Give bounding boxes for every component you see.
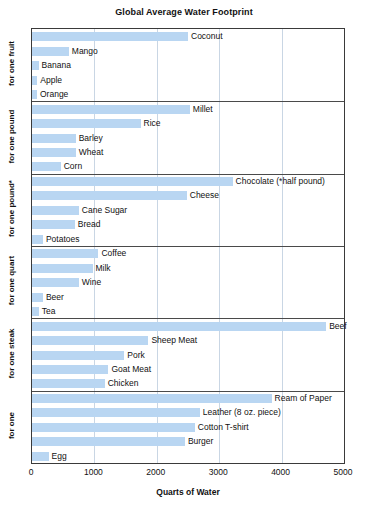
bar — [32, 423, 195, 432]
bar-label: Chocolate (*half pound) — [233, 177, 325, 186]
y-axis-group-label: for one pound — [7, 100, 16, 172]
bar — [32, 336, 148, 345]
bar-label: Cheese — [187, 191, 219, 200]
bar-label: Tea — [39, 307, 56, 316]
bar-label: Corn — [61, 162, 82, 171]
bar-label: Coffee — [98, 249, 126, 258]
bar-label: Cotton T-shirt — [195, 423, 249, 432]
bar-label: Wine — [79, 278, 101, 287]
bar-label: Pork — [124, 351, 144, 360]
bar — [32, 264, 93, 273]
bar — [32, 177, 233, 186]
bar-label: Leather (8 oz. piece) — [200, 408, 281, 417]
bar — [32, 134, 76, 143]
group-separator — [32, 318, 344, 319]
bar-label: Potatoes — [43, 235, 80, 244]
bar-label: Sheep Meat — [148, 336, 197, 345]
bar-label: Wheat — [76, 148, 104, 157]
group-separator — [32, 174, 344, 175]
bar — [32, 47, 69, 56]
bar-label: Beer — [43, 293, 64, 302]
y-axis-group-label: for one fruit — [7, 28, 16, 100]
bar — [32, 206, 79, 215]
bar — [32, 452, 49, 461]
plot-area: CoconutMangoBananaAppleOrangeMilletRiceB… — [31, 28, 345, 464]
bar — [32, 322, 326, 331]
x-tick-0: 0 — [11, 467, 51, 477]
x-tick-3000: 3000 — [198, 467, 238, 477]
bar — [32, 379, 105, 388]
x-tick-5000: 5000 — [323, 467, 363, 477]
bar-label: Goat Meat — [108, 365, 151, 374]
bar-label: Milk — [93, 264, 111, 273]
bar-label: Chicken — [105, 379, 139, 388]
bar — [32, 32, 188, 41]
bar — [32, 408, 200, 417]
bar-label: Burger — [185, 437, 214, 446]
bar-label: Mango — [69, 47, 98, 56]
bar — [32, 162, 61, 171]
bar-label: Orange — [37, 90, 68, 99]
bar-label: Banana — [39, 61, 71, 70]
bar-label: Bread — [75, 220, 101, 229]
bar — [32, 249, 98, 258]
bar-label: Millet — [190, 105, 213, 114]
bar-label: Egg — [49, 452, 67, 461]
group-separator — [32, 246, 344, 247]
bar — [32, 307, 39, 316]
bar-label: Cane Sugar — [79, 206, 127, 215]
x-axis-title: Quarts of Water — [31, 487, 345, 497]
bar-label: Beef — [326, 322, 347, 331]
x-tick-1000: 1000 — [73, 467, 113, 477]
bar-label: Coconut — [188, 32, 223, 41]
chart-title: Global Average Water Footprint — [0, 7, 368, 17]
bar — [32, 351, 124, 360]
bar — [32, 220, 75, 229]
bar-label: Ream of Paper — [272, 394, 332, 403]
bar — [32, 278, 79, 287]
bar — [32, 119, 141, 128]
group-separator — [32, 101, 344, 102]
x-tick-4000: 4000 — [261, 467, 301, 477]
bar-label: Apple — [37, 76, 62, 85]
y-axis-group-label: for one pound* — [7, 172, 16, 244]
x-tick-2000: 2000 — [136, 467, 176, 477]
bar — [32, 394, 272, 403]
water-footprint-chart: Global Average Water Footprint CoconutMa… — [0, 0, 368, 513]
y-axis-group-label: for one steak — [7, 317, 16, 389]
bar-label: Barley — [76, 134, 103, 143]
bar — [32, 191, 187, 200]
bar — [32, 148, 76, 157]
y-axis-group-label: for one — [7, 389, 16, 461]
bar-label: Rice — [141, 119, 161, 128]
y-axis-group-label: for one quart — [7, 245, 16, 317]
bar — [32, 293, 43, 302]
group-separator — [32, 391, 344, 392]
bar — [32, 365, 108, 374]
bar — [32, 235, 43, 244]
bar — [32, 437, 185, 446]
bar — [32, 105, 190, 114]
